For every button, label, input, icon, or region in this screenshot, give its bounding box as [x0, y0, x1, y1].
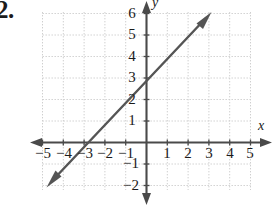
x-axis-label: x [258, 119, 264, 133]
y-tick-label-5: 5 [124, 27, 140, 42]
x-tick-label-neg4: −4 [53, 146, 75, 161]
figure-canvas: 2. [0, 0, 279, 206]
x-tick-label-3: 3 [201, 146, 217, 161]
y-axis [142, 1, 151, 205]
y-tick-label-1: 1 [124, 113, 140, 128]
y-axis-bottom-arrowhead [142, 193, 151, 205]
y-axis-top-arrowhead [142, 1, 151, 13]
x-axis-right-arrowhead [260, 138, 272, 147]
y-axis-label: y [152, 0, 158, 10]
y-tick-label-3: 3 [124, 70, 140, 85]
x-tick-label-1: 1 [159, 146, 175, 161]
y-tick-label-neg2: −2 [120, 178, 142, 193]
x-tick-label-neg3: −3 [74, 146, 96, 161]
y-tick-label-4: 4 [124, 49, 140, 64]
x-tick-label-neg2: −2 [94, 146, 116, 161]
x-tick-label-2: 2 [180, 146, 196, 161]
x-tick-label-4: 4 [222, 146, 238, 161]
y-tick-label-6: 6 [124, 6, 140, 21]
y-tick-label-2: 2 [124, 92, 140, 107]
coordinate-plot: 6 5 4 3 2 1 −1 −2 −5 −4 −3 −2 −1 1 2 3 4… [0, 0, 279, 206]
x-tick-label-neg1: −1 [115, 146, 137, 161]
x-tick-label-neg5: −5 [32, 146, 54, 161]
x-tick-label-5: 5 [242, 146, 258, 161]
